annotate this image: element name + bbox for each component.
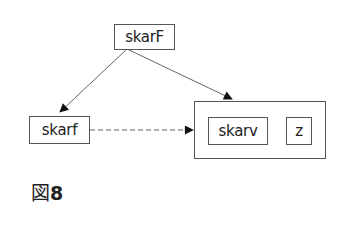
node-skarF-label: skarF: [125, 28, 164, 46]
node-skarf-label: skarf: [42, 121, 77, 139]
edge-skarF-to-skarf: [60, 49, 127, 112]
edge-skarF-to-container: [127, 49, 232, 99]
node-skarv-label: skarv: [219, 122, 258, 140]
figure-caption-number: 8: [50, 182, 63, 204]
node-skarf: skarf: [29, 116, 90, 144]
node-skarF: skarF: [114, 24, 175, 50]
node-z-label: z: [295, 122, 303, 140]
figure-caption-prefix: 図: [31, 182, 50, 204]
figure-caption: 図8: [31, 178, 63, 205]
node-skarv: skarv: [208, 117, 268, 145]
node-z: z: [286, 117, 312, 145]
